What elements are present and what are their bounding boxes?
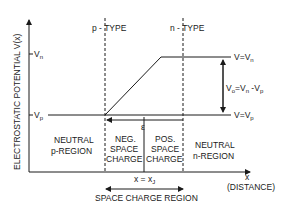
v-eq-vn-label: V=Vn (234, 52, 254, 63)
svg-text:SPACE: SPACE (151, 144, 180, 154)
tick-vn-label: Vn (34, 49, 43, 60)
svg-text:CHARGE: CHARGE (106, 154, 143, 164)
pos-space-charge-label: POS. SPACE CHARGE (146, 134, 183, 164)
field-label: ε (141, 122, 145, 132)
diagram-canvas: ELECTROSTATIC POTENTIAL V(x) Vn Vp p - T… (0, 0, 284, 211)
tick-vp-label: Vp (34, 110, 44, 121)
v-eq-vp-label: V=Vp (234, 110, 254, 121)
p-type-label: p - TYPE (92, 23, 127, 33)
n-type-label: n - TYPE (170, 23, 205, 33)
neutral-p-region-label: NEUTRAL p-REGION (51, 135, 94, 156)
junction-label: x = xJ (134, 174, 155, 185)
pn-junction-diagram: ELECTROSTATIC POTENTIAL V(x) Vn Vp p - T… (0, 0, 284, 211)
svg-text:CHARGE: CHARGE (146, 154, 183, 164)
x-axis-label: x (245, 172, 250, 182)
v0-label: Vo=Vn -Vp (226, 83, 264, 94)
potential-curve (48, 57, 231, 115)
x-axis-sublabel: (DISTANCE) (227, 182, 275, 192)
svg-text:NEG.: NEG. (115, 134, 136, 144)
neutral-n-region-label: NEUTRAL n-REGION (193, 140, 235, 161)
y-axis-label: ELECTROSTATIC POTENTIAL V(x) (12, 34, 22, 170)
neg-space-charge-label: NEG. SPACE CHARGE (106, 134, 143, 164)
space-charge-region-label: SPACE CHARGE REGION (95, 193, 198, 203)
svg-text:NEUTRAL: NEUTRAL (195, 140, 235, 150)
svg-text:p-REGION: p-REGION (51, 146, 92, 156)
svg-text:NEUTRAL: NEUTRAL (54, 135, 94, 145)
svg-text:n-REGION: n-REGION (193, 151, 234, 161)
svg-text:SPACE: SPACE (110, 144, 139, 154)
svg-text:POS.: POS. (155, 134, 175, 144)
